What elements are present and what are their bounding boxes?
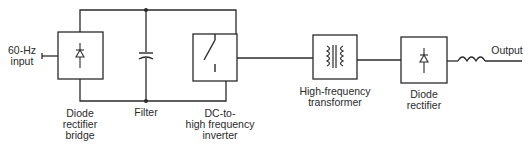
filter-label-line1: Filter xyxy=(126,107,166,118)
transformer-icon xyxy=(327,45,343,68)
top-bus-wire xyxy=(80,10,236,34)
rectifier-label: Diode rectifier xyxy=(399,89,449,111)
transformer-box xyxy=(313,35,357,79)
rectifier-diode-icon xyxy=(420,48,428,73)
output-label: Output xyxy=(487,45,527,56)
bottom-bus-wire xyxy=(80,79,226,101)
switch-icon xyxy=(204,34,215,72)
junction-dot-top xyxy=(144,8,148,12)
inverter-label-line3: inverter xyxy=(180,130,260,141)
diode-rectifier-bridge-box xyxy=(58,32,103,79)
rectifier-label-line2: rectifier xyxy=(399,100,449,111)
transformer-label-line2: transformer xyxy=(295,97,375,108)
inverter-label: DC-to- high frequency inverter xyxy=(180,108,260,141)
input-label-line2: input xyxy=(2,56,42,67)
bridge-label: Diode rectifier bridge xyxy=(55,108,105,141)
diode-rectifier-box xyxy=(401,37,447,83)
transformer-label: High-frequency transformer xyxy=(295,86,375,108)
output-label-text: Output xyxy=(487,45,527,56)
bridge-label-line3: bridge xyxy=(55,130,105,141)
bridge-diode-icon xyxy=(76,43,84,68)
junction-dot-bottom xyxy=(144,99,148,103)
filter-label: Filter xyxy=(126,107,166,118)
inductor-icon xyxy=(458,57,485,61)
input-label: 60-Hz input xyxy=(2,45,42,67)
